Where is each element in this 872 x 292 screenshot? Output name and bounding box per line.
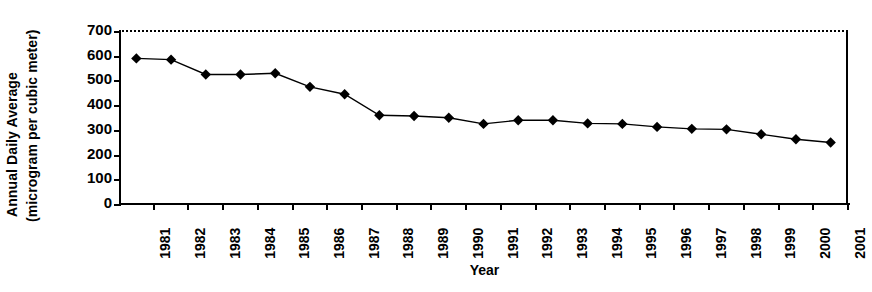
data-point-marker: [791, 134, 801, 144]
x-tick-label: 1997: [713, 228, 727, 259]
data-point-marker: [721, 124, 731, 134]
data-point-marker: [478, 119, 488, 129]
x-tick-label: 1996: [679, 228, 693, 259]
data-point-marker: [825, 137, 835, 147]
data-point-marker: [582, 118, 592, 128]
x-tick-mark: [187, 203, 189, 210]
x-tick-label: 1983: [227, 228, 241, 259]
x-tick-label: 1999: [783, 228, 797, 259]
x-tick-mark: [396, 203, 398, 210]
x-tick-mark: [535, 203, 537, 210]
x-tick-mark: [465, 203, 467, 210]
data-point-marker: [444, 113, 454, 123]
data-point-marker: [756, 129, 766, 139]
x-tick-mark: [778, 203, 780, 210]
x-tick-mark: [708, 203, 710, 210]
x-tick-label: 1988: [401, 228, 415, 259]
data-point-marker: [409, 111, 419, 121]
x-tick-label: 1994: [609, 228, 623, 259]
x-tick-label: 1982: [193, 228, 207, 259]
x-axis-title: Year: [119, 262, 850, 278]
data-point-marker: [617, 119, 627, 129]
x-tick-mark: [673, 203, 675, 210]
x-tick-label: 1985: [297, 228, 311, 259]
x-tick-mark: [500, 203, 502, 210]
data-point-marker: [235, 69, 245, 79]
x-tick-label: 2001: [852, 228, 866, 259]
x-tick-label: 1986: [332, 228, 346, 259]
x-tick-mark: [326, 203, 328, 210]
x-tick-mark: [430, 203, 432, 210]
x-tick-label: 1981: [158, 228, 172, 259]
x-tick-label: 1995: [644, 228, 658, 259]
data-point-marker: [374, 110, 384, 120]
x-tick-mark: [292, 203, 294, 210]
chart-figure: Annual Daily Average (microgram per cubi…: [0, 0, 872, 292]
data-point-marker: [305, 82, 315, 92]
x-tick-mark: [569, 203, 571, 210]
x-tick-label: 1998: [748, 228, 762, 259]
x-tick-mark: [743, 203, 745, 210]
data-point-marker: [652, 122, 662, 132]
data-point-marker: [687, 124, 697, 134]
data-point-marker: [166, 54, 176, 64]
x-tick-label: 1987: [366, 228, 380, 259]
data-point-marker: [513, 115, 523, 125]
data-point-marker: [339, 89, 349, 99]
data-point-marker: [131, 53, 141, 63]
x-tick-label: 1992: [540, 228, 554, 259]
x-tick-label: 2000: [818, 228, 832, 259]
x-tick-label: 1984: [262, 228, 276, 259]
x-tick-label: 1991: [505, 228, 519, 259]
x-tick-mark: [604, 203, 606, 210]
data-point-marker: [201, 69, 211, 79]
x-tick-mark: [153, 203, 155, 210]
x-tick-label: 1993: [575, 228, 589, 259]
x-tick-label: 1990: [470, 228, 484, 259]
x-tick-mark: [812, 203, 814, 210]
x-tick-mark: [639, 203, 641, 210]
data-point-marker: [270, 68, 280, 78]
x-tick-mark: [257, 203, 259, 210]
x-tick-mark: [847, 203, 849, 210]
x-tick-mark: [361, 203, 363, 210]
x-tick-mark: [222, 203, 224, 210]
x-tick-label: 1989: [436, 228, 450, 259]
data-point-marker: [548, 115, 558, 125]
